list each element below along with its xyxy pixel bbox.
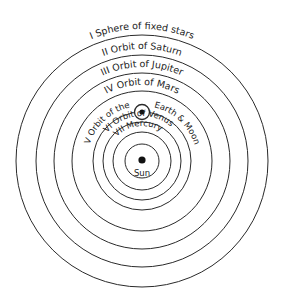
label-mars: IV Orbit of Mars <box>102 76 181 96</box>
label-sun: Sun <box>134 168 150 178</box>
label-fixed-stars: I Sphere of fixed stars <box>88 20 196 41</box>
sun-dot-icon <box>138 156 145 163</box>
label-jupiter: III Orbit of Jupiter <box>99 58 185 78</box>
diagram-canvas: I Sphere of fixed stars II Orbit of Satu… <box>0 0 282 307</box>
copernican-diagram: I Sphere of fixed stars II Orbit of Satu… <box>0 0 282 307</box>
